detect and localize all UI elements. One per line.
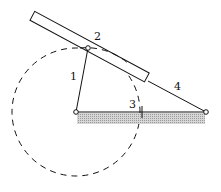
pivot-joint-b — [204, 110, 209, 115]
mechanism-diagram: 1 2 3 4 — [0, 0, 221, 192]
pivot-joint-o — [74, 110, 79, 115]
label-rocker: 4 — [174, 80, 181, 93]
label-frame: 3 — [129, 98, 136, 111]
ground-hatch — [77, 113, 205, 124]
pivot-joint-a — [86, 46, 91, 51]
label-slider: 2 — [94, 30, 101, 43]
label-crank: 1 — [70, 70, 77, 83]
crank-link-1 — [76, 48, 88, 112]
